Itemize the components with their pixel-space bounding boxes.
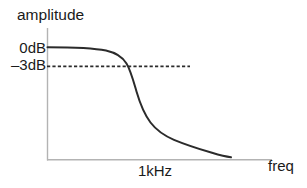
y-axis-label: amplitude	[17, 7, 84, 23]
y-tick-label-minus-3db: –3dB	[0, 57, 46, 72]
x-axis-label: freq	[268, 158, 294, 173]
filter-response-figure: amplitude 0dB –3dB 1kHz freq	[0, 0, 307, 188]
y-tick-label-0db: 0dB	[0, 40, 46, 55]
plot-canvas	[0, 0, 307, 188]
response-curve	[48, 47, 232, 157]
x-tick-label-1khz: 1kHz	[119, 163, 191, 178]
